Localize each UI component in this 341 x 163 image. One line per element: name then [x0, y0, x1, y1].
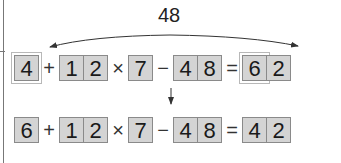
digit-cell: 4	[242, 117, 267, 143]
number-box-48: 48	[173, 117, 222, 143]
number-box-4: 4	[14, 55, 39, 81]
equals-operator: =	[222, 57, 242, 80]
number-box-7: 7	[128, 117, 153, 143]
digit-cell: 2	[83, 117, 108, 143]
digit-cell: 6	[14, 117, 39, 143]
equals-operator: =	[222, 119, 242, 142]
digit-cell: 4	[173, 55, 198, 81]
plus-operator: +	[39, 57, 59, 80]
digit-cell: 2	[266, 117, 291, 143]
minus-operator: −	[153, 119, 173, 142]
digit-cell: 7	[128, 55, 153, 81]
digit-cell: 8	[197, 55, 222, 81]
digit-cell-highlighted: 6	[242, 55, 267, 81]
digit-cell: 4	[173, 117, 198, 143]
number-box-12: 12	[59, 117, 108, 143]
times-operator: ×	[108, 57, 128, 80]
digit-cell: 2	[266, 55, 291, 81]
number-box-7: 7	[128, 55, 153, 81]
digit-cell: 8	[197, 117, 222, 143]
original-equation: 4 + 12 × 7 − 48 = 62	[14, 54, 291, 82]
plus-operator: +	[39, 119, 59, 142]
swapped-equation: 6 + 12 × 7 − 48 = 42	[14, 116, 291, 144]
times-operator: ×	[108, 119, 128, 142]
number-box-62: 62	[242, 55, 291, 81]
minus-operator: −	[153, 57, 173, 80]
digit-cell: 1	[59, 55, 84, 81]
number-box-48: 48	[173, 55, 222, 81]
digit-cell: 7	[128, 117, 153, 143]
number-box-12: 12	[59, 55, 108, 81]
digit-cell: 2	[83, 55, 108, 81]
swap-arc-arrow-right	[170, 35, 298, 46]
digit-cell: 4	[14, 55, 39, 81]
digit-cell: 1	[59, 117, 84, 143]
number-box-6: 6	[14, 117, 39, 143]
swap-arc-arrow-left	[50, 35, 170, 47]
number-box-42: 42	[242, 117, 291, 143]
